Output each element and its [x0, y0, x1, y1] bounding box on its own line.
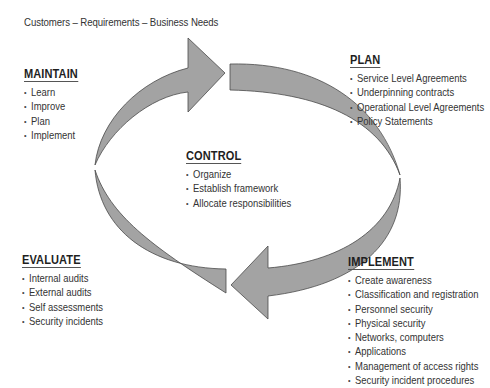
- phase-control: CONTROL Organize Establish framework All…: [186, 146, 303, 211]
- list-item: Learn: [24, 86, 77, 100]
- phase-plan: PLAN Service Level Agreements Underpinni…: [350, 50, 490, 129]
- list-item: Self assessments: [22, 301, 103, 315]
- list-item: Establish framework: [186, 182, 291, 196]
- phase-title-evaluate: EVALUATE: [22, 254, 81, 268]
- list-item: Plan: [24, 115, 77, 129]
- list-item: Create awareness: [348, 274, 478, 288]
- list-item: Service Level Agreements: [350, 72, 484, 86]
- list-item: Security incidents: [22, 315, 103, 329]
- phase-items-maintain: Learn Improve Plan Implement: [24, 86, 83, 143]
- list-item: Internal audits: [22, 272, 103, 286]
- list-item: Policy Statements: [350, 115, 484, 129]
- phase-items-implement: Create awareness Classification and regi…: [348, 274, 490, 388]
- list-item: Operational Level Agreements: [350, 101, 484, 115]
- diagram-caption: Customers – Requirements – Business Need…: [24, 16, 218, 28]
- phase-items-plan: Service Level Agreements Underpinning co…: [350, 72, 490, 129]
- list-item: External audits: [22, 286, 103, 300]
- list-item: Allocate responsibilities: [186, 197, 291, 211]
- phase-title-plan: PLAN: [350, 54, 380, 68]
- phase-title-maintain: MAINTAIN: [24, 68, 78, 82]
- list-item: Security incident procedures: [348, 374, 478, 388]
- list-item: Improve: [24, 100, 77, 114]
- phase-title-implement: IMPLEMENT: [348, 256, 414, 270]
- list-item: Management of access rights: [348, 360, 478, 374]
- phase-items-evaluate: Internal audits External audits Self ass…: [22, 272, 112, 329]
- list-item: Underpinning contracts: [350, 86, 484, 100]
- list-item: Applications: [348, 345, 478, 359]
- list-item: Physical security: [348, 317, 478, 331]
- phase-evaluate: EVALUATE Internal audits External audits…: [22, 250, 112, 329]
- phase-items-control: Organize Establish framework Allocate re…: [186, 168, 303, 211]
- list-item: Classification and registration: [348, 288, 478, 302]
- phase-maintain: MAINTAIN Learn Improve Plan Implement: [24, 64, 83, 143]
- phase-implement: IMPLEMENT Create awareness Classificatio…: [348, 252, 490, 388]
- list-item: Networks, computers: [348, 331, 478, 345]
- list-item: Organize: [186, 168, 291, 182]
- phase-title-control: CONTROL: [186, 150, 241, 164]
- list-item: Personnel security: [348, 303, 478, 317]
- list-item: Implement: [24, 129, 77, 143]
